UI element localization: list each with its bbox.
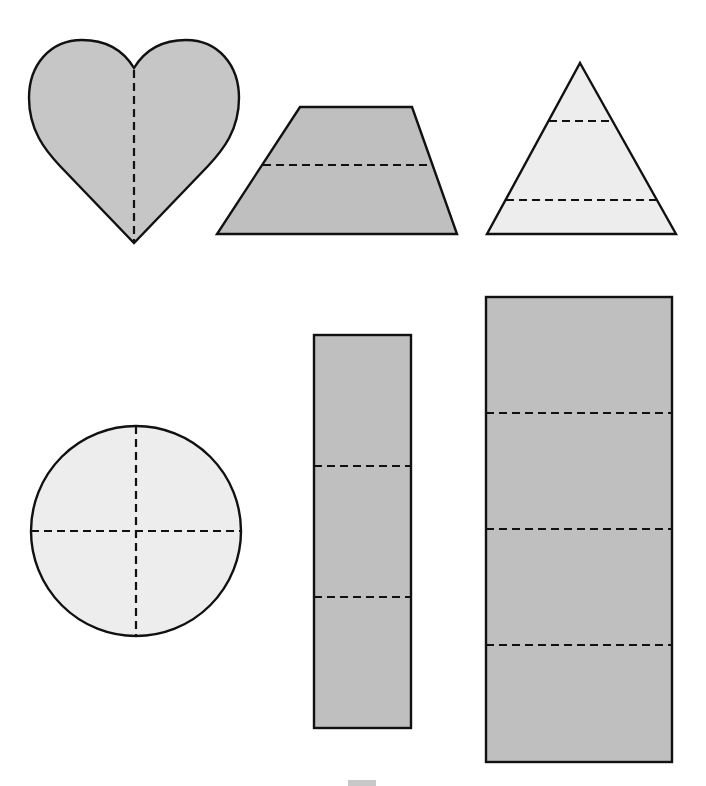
shapes-figure xyxy=(0,0,706,786)
narrow-rectangle-shape xyxy=(314,335,411,728)
circle-shape xyxy=(31,426,241,636)
trapezoid-shape xyxy=(217,107,457,234)
heart-shape xyxy=(29,40,239,243)
wide-rectangle-shape xyxy=(486,297,672,762)
page-edge-mark xyxy=(348,780,376,786)
triangle-shape xyxy=(487,63,676,234)
